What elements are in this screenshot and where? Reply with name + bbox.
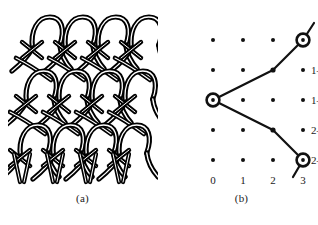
needle-point	[241, 158, 245, 162]
overlap-ring	[297, 34, 310, 47]
lapping-diagram: 1–2 1–0 2–1 2–3 0 1 2 3	[165, 0, 318, 200]
needle-point	[301, 68, 305, 72]
needle-point-grid	[211, 38, 305, 162]
needle-point	[211, 68, 215, 72]
needle-point	[271, 98, 275, 102]
needle-point	[241, 68, 245, 72]
row-label-2-3: 2–3	[311, 154, 318, 166]
needle-point	[241, 38, 245, 42]
needle-point	[211, 128, 215, 132]
panel-b-caption: (b)	[165, 192, 318, 204]
overlap-rings	[207, 34, 310, 167]
row-label-1-0: 1–0	[311, 94, 318, 106]
panel-a-knitted-fabric: (a)	[0, 0, 165, 225]
overlap-ring	[207, 94, 220, 107]
figure-root: (a)	[0, 0, 318, 225]
x-tick-0: 0	[210, 174, 216, 186]
x-tick-1: 1	[240, 174, 246, 186]
needle-point	[241, 128, 245, 132]
fabric-cross-row-2	[16, 96, 135, 112]
needle-point	[241, 98, 245, 102]
x-tick-3: 3	[300, 174, 306, 186]
panel-a-caption: (a)	[0, 192, 165, 204]
path-vertex	[270, 127, 275, 132]
row-label-1-2: 1–2	[311, 64, 318, 76]
path-vertex	[270, 67, 275, 72]
panel-b-lapping-diagram: 1–2 1–0 2–1 2–3 0 1 2 3 (b)	[165, 0, 318, 225]
needle-point	[301, 128, 305, 132]
row-label-2-1: 2–1	[311, 124, 318, 136]
x-axis-labels: 0 1 2 3	[210, 174, 306, 186]
needle-point	[301, 98, 305, 102]
needle-point	[271, 38, 275, 42]
needle-point	[211, 38, 215, 42]
needle-point	[271, 158, 275, 162]
knitted-fabric-diagram	[8, 6, 158, 191]
overlap-ring	[297, 154, 310, 167]
fabric-cross-row-1	[22, 42, 141, 58]
x-tick-2: 2	[270, 174, 276, 186]
row-labels: 1–2 1–0 2–1 2–3	[311, 64, 318, 166]
needle-point	[211, 158, 215, 162]
